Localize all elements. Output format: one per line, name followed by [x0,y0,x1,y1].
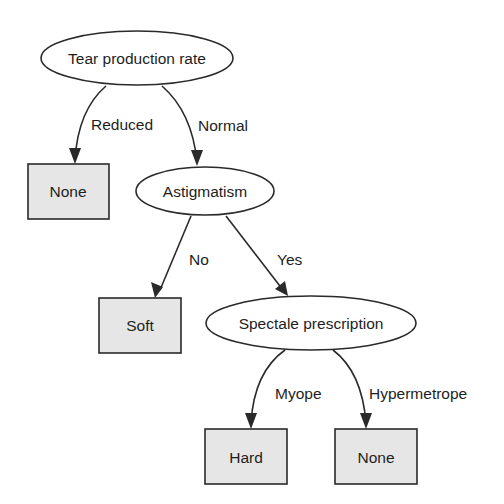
svg-text:Tear production rate: Tear production rate [68,50,206,67]
edge-label-reduced: Reduced [91,116,153,133]
node-spectacle-prescription: Spectale prescription [206,296,416,350]
leaf-none-1: None [28,164,109,219]
node-tear-production-rate: Tear production rate [41,31,233,85]
edge-label-hypermetrope: Hypermetrope [369,385,467,402]
edge-yes [226,216,283,290]
edge-label-normal: Normal [198,117,248,134]
node-astigmatism: Astigmatism [136,167,274,215]
svg-text:Hard: Hard [229,449,263,466]
svg-text:None: None [357,449,394,466]
edge-label-no: No [189,251,209,268]
leaf-none-2: None [335,429,417,484]
decision-tree-diagram: Tear production rate Reduced Normal None… [0,0,504,504]
svg-text:Astigmatism: Astigmatism [163,183,247,200]
svg-text:Spectale prescription: Spectale prescription [239,315,384,332]
svg-text:None: None [49,183,86,200]
leaf-soft: Soft [99,298,181,353]
edge-no [160,216,191,290]
edge-hypermetrope [333,350,366,423]
edge-label-yes: Yes [277,251,303,268]
edge-label-myope: Myope [275,385,322,402]
leaf-hard: Hard [205,429,287,484]
svg-text:Soft: Soft [126,317,154,334]
